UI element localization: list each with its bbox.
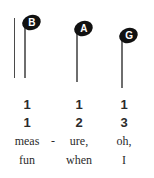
note-b-stem	[24, 24, 26, 78]
notation-area: B A G	[0, 0, 154, 95]
music-notation-figure: B A G 1 1 1 1 2 3	[0, 0, 154, 178]
text-block: 1 1 1 1 2 3 meas - ure, oh, fun when I	[0, 95, 154, 178]
beats-cell-1: 1	[7, 115, 47, 130]
note-a-letter: A	[80, 24, 87, 34]
lyric-v2-syllable-2: when	[59, 153, 99, 168]
lyric-v2-syllable-1: fun	[7, 153, 47, 168]
note-g-stem	[121, 37, 123, 88]
beats-cell-2: 2	[59, 115, 99, 130]
counts-cell-3: 1	[104, 97, 144, 112]
note-a-stem	[76, 30, 78, 82]
lyric-v2-syllable-3: I	[104, 153, 144, 168]
note-g-letter: G	[125, 31, 133, 41]
counts-cell-1: 1	[7, 97, 47, 112]
note-b-letter: B	[28, 18, 35, 28]
counts-cell-2: 1	[59, 97, 99, 112]
barline	[14, 18, 15, 78]
lyric-v1-syllable-1: meas	[7, 134, 47, 149]
beats-cell-3: 3	[104, 115, 144, 130]
lyric-hyphen: -	[47, 134, 59, 149]
lyric-v1-syllable-3: oh,	[104, 134, 144, 149]
lyric-v1-syllable-2: ure,	[59, 134, 99, 149]
